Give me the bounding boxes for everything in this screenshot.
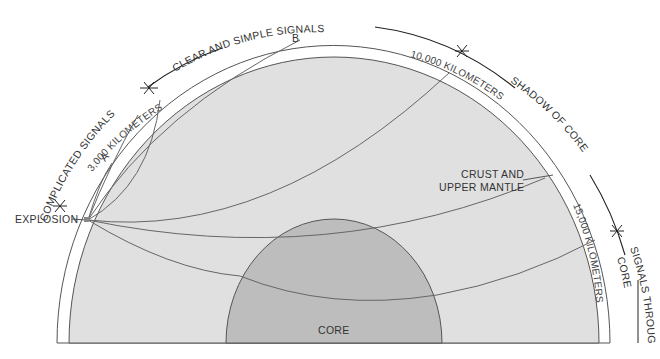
tick-10000-icon — [455, 45, 469, 57]
station-b-label: B — [292, 32, 299, 44]
explosion-label: EXPLOSION — [15, 213, 78, 225]
explosion-marker — [84, 217, 89, 222]
earth-cross-section-diagram: COMPLICATED SIGNALS CLEAR AND SIMPLE SIG… — [0, 0, 660, 359]
crust-label-line2: UPPER MANTLE — [439, 181, 524, 193]
tick-3000-icon — [140, 82, 158, 94]
core-label: CORE — [318, 324, 350, 336]
signals-through-core-label-2: CORE — [615, 255, 634, 289]
crust-label-line1: CRUST AND — [461, 168, 524, 180]
tick-15000-icon — [610, 225, 624, 237]
